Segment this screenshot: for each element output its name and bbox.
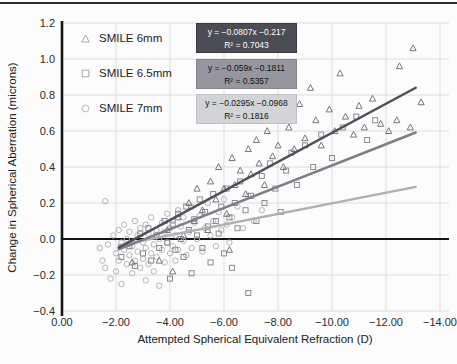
x-tick-label: −6.00	[210, 316, 238, 328]
data-point-triangle	[313, 117, 319, 123]
square-marker-icon	[81, 69, 90, 78]
data-point-circle	[143, 245, 148, 250]
data-point-square	[365, 138, 370, 143]
data-point-circle	[132, 218, 137, 223]
r-squared-text: R² = 0.5357	[197, 75, 296, 88]
y-tick-label: −0.2	[33, 269, 55, 281]
data-point-triangle	[253, 137, 259, 143]
data-point-square	[149, 258, 154, 263]
y-axis-title: Change in Spherical Aberration (microns)	[6, 18, 21, 318]
data-point-circle	[127, 253, 132, 258]
scatter-plot: 0.00−2.00−4.00−6.00−8.00−10.00−12.00−14.…	[0, 0, 457, 364]
y-tick-label: 0.8	[40, 89, 55, 101]
x-tick-label: −14.00	[423, 316, 457, 328]
data-point-triangle	[156, 257, 162, 263]
r-squared-text: R² = 0.1816	[197, 110, 296, 123]
data-point-circle	[127, 229, 132, 234]
data-point-triangle	[286, 124, 292, 130]
trend-line	[119, 187, 416, 245]
data-point-circle	[259, 208, 264, 213]
data-point-square	[216, 231, 221, 236]
data-point-circle	[135, 249, 140, 254]
data-point-triangle	[245, 146, 251, 152]
data-point-circle	[213, 244, 218, 249]
data-point-circle	[138, 265, 143, 270]
equation-box-7mm: y = −0.0295x −0.0968 R² = 0.1816	[196, 94, 297, 124]
figure: 0.00−2.00−4.00−6.00−8.00−10.00−12.00−14.…	[0, 0, 457, 364]
data-point-triangle	[337, 70, 343, 76]
data-point-circle	[119, 281, 124, 286]
data-point-circle	[175, 208, 180, 213]
data-point-circle	[108, 276, 113, 281]
equation-text: y = −0.0295x −0.0968	[197, 97, 296, 110]
data-point-circle	[148, 251, 153, 256]
x-axis-title: Attempted Spherical Equivalent Refractio…	[62, 333, 448, 345]
r-squared-text: R² = 0.7043	[197, 39, 296, 52]
data-point-circle	[148, 215, 153, 220]
data-point-triangle	[369, 95, 375, 101]
data-point-triangle	[410, 45, 416, 51]
data-point-triangle	[270, 153, 276, 159]
data-point-triangle	[361, 124, 367, 130]
data-point-circle	[181, 215, 186, 220]
data-point-triangle	[302, 135, 308, 141]
data-point-circle	[140, 256, 145, 261]
x-tick-label: −2.00	[102, 316, 130, 328]
data-point-circle	[116, 227, 121, 232]
data-point-square	[141, 251, 146, 256]
data-point-circle	[100, 258, 105, 263]
y-tick-label: −0.4	[33, 305, 55, 317]
data-point-triangle	[307, 85, 313, 91]
equation-box-6mm: y = −0.0807x −0.217 R² = 0.7043	[196, 23, 297, 53]
data-point-triangle	[261, 182, 267, 188]
data-point-triangle	[326, 106, 332, 112]
equation-text: y = −0.059x −0.1811	[197, 62, 296, 75]
data-point-triangle	[342, 113, 348, 119]
data-point-square	[373, 118, 378, 123]
data-point-circle	[151, 242, 156, 247]
circle-marker-icon	[81, 104, 90, 113]
equation-box-6-5mm: y = −0.059x −0.1811 R² = 0.5357	[196, 59, 297, 89]
data-point-square	[294, 183, 299, 188]
data-point-triangle	[170, 268, 176, 274]
data-point-triangle	[226, 247, 232, 253]
y-tick-label: 1.2	[40, 17, 55, 29]
legend-label: SMILE 7mm	[99, 102, 162, 114]
legend-item-smile-6mm: SMILE 6mm	[81, 31, 162, 45]
data-point-circle	[121, 222, 126, 227]
data-point-circle	[124, 262, 129, 267]
data-point-circle	[240, 226, 245, 231]
data-point-circle	[173, 258, 178, 263]
data-point-triangle	[194, 185, 200, 191]
data-point-triangle	[356, 103, 362, 109]
data-point-circle	[138, 226, 143, 231]
data-point-square	[119, 255, 124, 260]
legend-label: SMILE 6mm	[99, 32, 162, 44]
data-point-circle	[200, 249, 205, 254]
trend-line	[119, 132, 416, 249]
legend-item-smile-6-5mm: SMILE 6.5mm	[81, 66, 172, 80]
data-point-triangle	[256, 160, 262, 166]
data-point-triangle	[318, 142, 324, 148]
data-point-triangle	[378, 121, 384, 127]
x-tick-label: −8.00	[264, 316, 292, 328]
data-point-circle	[105, 242, 110, 247]
data-point-circle	[165, 240, 170, 245]
data-point-triangle	[297, 101, 303, 107]
data-point-triangle	[418, 99, 424, 105]
data-point-triangle	[229, 155, 235, 161]
data-point-triangle	[207, 178, 213, 184]
x-tick-label: 0.00	[51, 316, 72, 328]
data-point-circle	[143, 278, 148, 283]
data-point-square	[197, 197, 202, 202]
y-tick-label: 0.4	[40, 161, 55, 173]
data-point-circle	[111, 233, 116, 238]
data-point-triangle	[237, 167, 243, 173]
y-tick-label: 0.0	[40, 233, 55, 245]
data-point-circle	[227, 240, 232, 245]
data-point-circle	[157, 283, 162, 288]
data-point-triangle	[394, 117, 400, 123]
data-point-circle	[103, 265, 108, 270]
data-point-triangle	[407, 124, 413, 130]
y-tick-label: 1.0	[40, 53, 55, 65]
